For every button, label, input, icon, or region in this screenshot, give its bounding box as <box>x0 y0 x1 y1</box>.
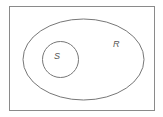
set-r-ellipse <box>23 19 144 100</box>
set-s-circle <box>43 42 79 78</box>
set-s-label: S <box>54 51 60 61</box>
set-r-label: R <box>113 39 120 49</box>
venn-diagram: R S <box>0 0 163 117</box>
universe-rectangle <box>10 7 155 111</box>
